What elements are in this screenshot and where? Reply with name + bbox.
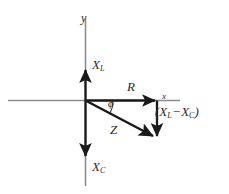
net-reactance-label: (XL−XC)	[155, 105, 199, 120]
capacitive-reactance-subscript: C	[100, 166, 105, 175]
inductive-reactance-base: X	[92, 57, 100, 72]
net-reactance-close-paren: )	[194, 104, 198, 119]
vector-impedance	[86, 101, 154, 137]
net-reactance-second-base: X	[181, 104, 189, 119]
capacitive-reactance-base: X	[92, 159, 100, 174]
capacitive-reactance-label: XC	[92, 160, 105, 175]
resistance-label: R	[127, 80, 135, 93]
inductive-reactance-subscript: L	[100, 64, 104, 73]
phasor-diagram-figure: y x XL XC R Z ϕ (XL−XC)	[0, 0, 229, 194]
y-axis-label: y	[81, 12, 86, 24]
impedance-label: Z	[110, 123, 117, 136]
phase-angle-label: ϕ	[108, 98, 114, 109]
net-reactance-operator: −	[172, 104, 181, 119]
inductive-reactance-label: XL	[92, 58, 104, 73]
x-axis-label: x	[162, 92, 166, 101]
phasor-diagram-canvas	[0, 0, 229, 194]
